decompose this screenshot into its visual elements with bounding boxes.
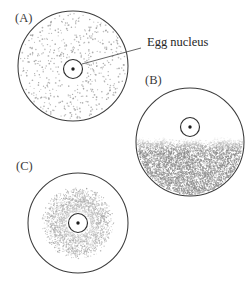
figure-canvas: (A) (B) (C): [0, 0, 250, 286]
panel-a-label: (A): [15, 11, 32, 25]
panel-b-nucleolus: [188, 125, 191, 128]
panel-a: (A): [15, 11, 128, 121]
egg-nucleus-label: Egg nucleus: [147, 35, 209, 49]
panel-b: (B): [136, 73, 246, 196]
panel-b-stipple-edge-fade: [136, 136, 246, 150]
panel-b-label: (B): [145, 73, 162, 87]
egg-nucleus-callout: Egg nucleus: [82, 35, 209, 64]
panel-a-nucleolus: [71, 67, 74, 70]
panel-b-stipple: [136, 136, 246, 195]
panel-c-nucleolus: [76, 221, 79, 224]
egg-determinant-diagram: (A) (B) (C): [0, 0, 250, 286]
panel-c-label: (C): [16, 159, 33, 173]
panel-c: (C): [16, 159, 128, 273]
